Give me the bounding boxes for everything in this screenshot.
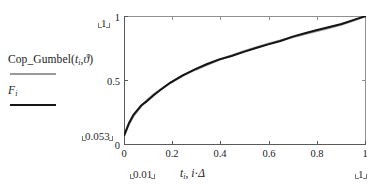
x-tick-label-2: 0.4 bbox=[213, 148, 226, 159]
caption-var-delta: Δ bbox=[198, 167, 205, 179]
x-tick-label-0: 0 bbox=[121, 148, 126, 159]
y-axis-min-placeholder[interactable]: 0.053 bbox=[82, 130, 113, 142]
x-axis-caption: ti, i·Δ bbox=[0, 167, 385, 181]
mathcad-plot-region: Cop_Gumbel(ti,ϑ) Fi 0 bbox=[0, 0, 385, 195]
legend-text-fn-name: Cop_Gumbel( bbox=[8, 53, 75, 65]
x-tick-label-1: 0.2 bbox=[165, 148, 178, 159]
x-tick-label-3: 0.6 bbox=[262, 148, 275, 159]
legend-swatch-cop-gumbel bbox=[10, 73, 56, 75]
y-tick-label-0-5: 0.5 bbox=[96, 76, 120, 87]
y-axis-max-placeholder[interactable]: 1 bbox=[98, 17, 110, 29]
series-line-cop-gumbel bbox=[124, 16, 366, 136]
plot-series-svg bbox=[124, 16, 366, 145]
series-line-empirical-f bbox=[124, 16, 366, 136]
plot-canvas[interactable] bbox=[124, 16, 366, 145]
legend-label-cop-gumbel: Cop_Gumbel(ti,ϑ) bbox=[8, 52, 120, 70]
legend-text-paren-close: ) bbox=[89, 53, 93, 65]
x-tick-label-4: 0.8 bbox=[310, 148, 323, 159]
legend-swatch-empirical-f bbox=[10, 104, 56, 106]
legend-text-sub-i2: i bbox=[15, 89, 17, 98]
x-tick-label-5: 1 bbox=[362, 148, 367, 159]
legend-entry-cop-gumbel: Cop_Gumbel(ti,ϑ) bbox=[8, 52, 120, 75]
